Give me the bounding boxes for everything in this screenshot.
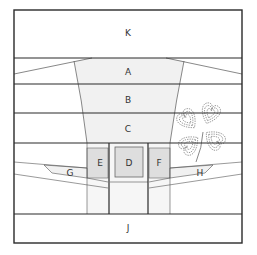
quilt-block-diagram: K A B C D E F G H J: [0, 0, 257, 255]
piece-h-fill: [170, 165, 213, 178]
label-j: J: [126, 223, 130, 233]
clover-motif: [174, 101, 227, 162]
label-a: A: [125, 67, 132, 77]
label-h: H: [197, 168, 204, 178]
label-c: C: [125, 124, 131, 134]
heart-top-left: [174, 106, 201, 133]
label-b: B: [125, 95, 131, 105]
heart-bottom-right: [200, 126, 227, 153]
clover-stem: [196, 132, 203, 162]
label-k: K: [125, 28, 132, 38]
label-d: D: [126, 158, 133, 168]
label-f: F: [156, 158, 161, 168]
label-e: E: [97, 158, 103, 168]
heart-top-right: [198, 101, 222, 126]
piece-g-fill: [44, 165, 87, 178]
label-g: G: [67, 168, 74, 178]
